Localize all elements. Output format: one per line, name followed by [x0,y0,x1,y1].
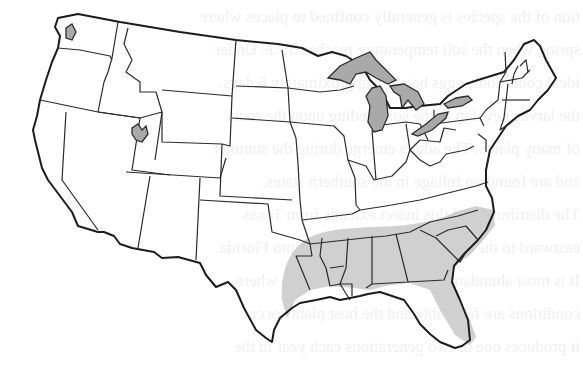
lake-michigan [366,86,388,132]
us-map [0,0,583,366]
lake-huron [390,84,424,110]
lake-superior [328,52,396,84]
puget-sound [66,24,76,40]
water-features [66,24,472,142]
great-salt-lake [132,124,148,142]
lake-ontario [444,96,472,108]
state-borders [40,22,530,300]
